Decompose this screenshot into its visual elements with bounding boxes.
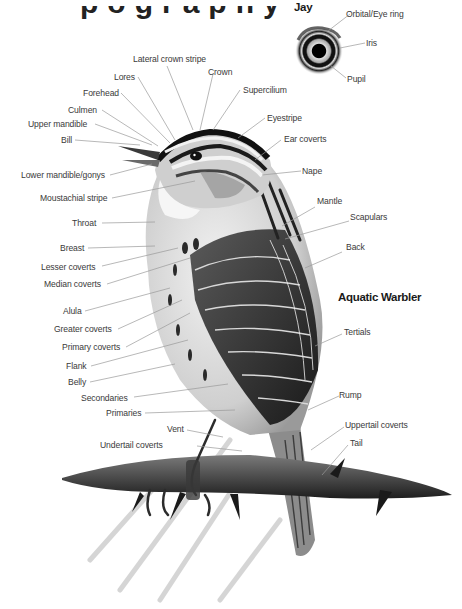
label-bill: Bill: [61, 135, 72, 145]
label-back: Back: [346, 242, 365, 252]
label-crown: Crown: [208, 67, 232, 77]
label-tertials: Tertials: [344, 327, 370, 337]
label-lores: Lores: [114, 72, 135, 82]
label-primary-coverts: Primary coverts: [62, 342, 120, 352]
label-lower-mandible: Lower mandible/gonys: [21, 170, 105, 180]
jay-heading: Jay: [294, 1, 312, 13]
label-median-coverts: Median coverts: [44, 279, 101, 289]
label-rump: Rump: [339, 390, 362, 400]
label-uppertail-coverts: Uppertail coverts: [345, 420, 408, 430]
label-flank: Flank: [66, 361, 87, 371]
jay-eye-illustration: [295, 27, 343, 75]
label-scapulars: Scapulars: [350, 212, 387, 222]
label-secondaries: Secondaries: [81, 393, 128, 403]
label-lateral-crown-stripe: Lateral crown stripe: [133, 54, 206, 64]
label-tail: Tail: [350, 438, 363, 448]
label-primaries: Primaries: [106, 408, 141, 418]
label-undertail-coverts: Undertail coverts: [100, 440, 163, 450]
label-moustachial-stripe: Moustachial stripe: [40, 193, 107, 203]
label-mantle: Mantle: [317, 196, 342, 206]
label-supercilium: Supercilium: [243, 85, 287, 95]
label-orbital-eye-ring: Orbital/Eye ring: [346, 9, 404, 19]
label-throat: Throat: [72, 218, 96, 228]
label-belly: Belly: [68, 377, 86, 387]
label-culmen: Culmen: [68, 105, 97, 115]
label-greater-coverts: Greater coverts: [54, 324, 112, 334]
label-iris: Iris: [366, 38, 377, 48]
label-upper-mandible: Upper mandible: [28, 119, 87, 129]
label-eyestripe: Eyestripe: [267, 113, 302, 123]
aquatic-warbler-heading: Aquatic Warbler: [338, 291, 421, 303]
bird-topography-diagram: pography: [0, 0, 462, 609]
label-vent: Vent: [167, 424, 184, 434]
illustration-layer: [0, 0, 462, 609]
label-ear-coverts: Ear coverts: [284, 134, 326, 144]
label-pupil: Pupil: [347, 74, 366, 84]
label-nape: Nape: [302, 166, 322, 176]
label-breast: Breast: [60, 243, 84, 253]
label-forehead: Forehead: [83, 88, 119, 98]
label-alula: Alula: [63, 306, 82, 316]
label-lesser-coverts: Lesser coverts: [41, 262, 95, 272]
